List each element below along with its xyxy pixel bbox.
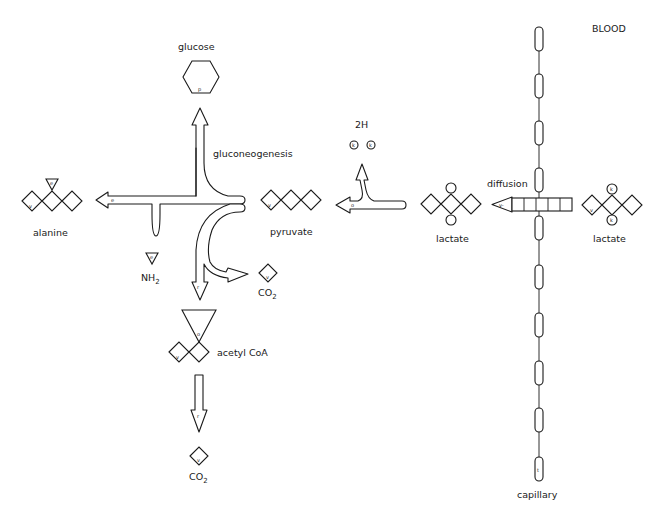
- acetyl-coa-label: acetyl CoA: [217, 347, 268, 358]
- co2-bottom-molecule: v: [190, 447, 208, 465]
- diffusion-arrow: v-: [492, 197, 572, 212]
- blood-lactate-square-3: [622, 195, 642, 215]
- capillary-cell: [535, 216, 543, 240]
- pyruvate-branching-arrows: [96, 108, 248, 300]
- capillary-cell: [535, 265, 543, 289]
- blood-lactate-k-bottom-glyph: k: [610, 217, 613, 223]
- gluconeogenesis-label: gluconeogenesis: [213, 148, 293, 159]
- capillary-cell: [535, 408, 543, 432]
- alanine-arrow-e-glyph: e: [111, 197, 114, 203]
- alanine-square-left: [22, 191, 42, 211]
- co2-mid-label: CO2: [258, 287, 277, 301]
- capillary-cell: [535, 361, 543, 385]
- capillary-cell: [535, 168, 543, 192]
- glucose-molecule: p: [183, 61, 219, 93]
- nh2-e-glyph: e: [150, 254, 153, 260]
- alanine-square-mid: [42, 191, 62, 211]
- alanine-label: alanine: [33, 227, 68, 238]
- lactate-tissue-molecule: [421, 183, 481, 225]
- blood-lactate-square-2: [602, 195, 622, 215]
- pyruvate-label: pyruvate: [270, 226, 313, 237]
- capillary-cell: [535, 27, 543, 51]
- diffusion-shaft: [512, 198, 572, 211]
- capillary-cell: [535, 74, 543, 98]
- h-k2-glyph: k: [369, 142, 372, 148]
- lactate-blood-molecule: k k v: [582, 184, 642, 225]
- decarboxylation-branch-arrow: [192, 204, 248, 300]
- metabolic-pathway-diagram: BLOOD glucose p gluconeogenesis e r e v …: [0, 0, 659, 514]
- pyruvate-square-1: [261, 190, 281, 210]
- acetyl-v-glyph: v: [176, 354, 179, 360]
- h-k1-glyph: k: [352, 142, 355, 148]
- glucose-label: glucose: [178, 41, 215, 52]
- lactate-oh-top: [446, 183, 456, 193]
- co2-bottom-label: CO2: [189, 471, 208, 485]
- tca-arrow: [191, 375, 207, 432]
- pyruvate-v-glyph: v: [268, 202, 271, 208]
- lactate-blood-label: lactate: [593, 233, 626, 244]
- acetyl-coa-square-left: [169, 342, 189, 362]
- capillary-label: capillary: [517, 489, 558, 500]
- acetyl-coa-triangle: [182, 310, 216, 342]
- capillary-wall: t: [535, 27, 543, 481]
- lactate-square-2: [441, 194, 461, 214]
- blood-lactate-v-glyph: v: [590, 207, 593, 213]
- acetyl-coa-square-right: [189, 342, 209, 362]
- nh2-label: NH2: [141, 272, 160, 286]
- acetyl-o-glyph: o: [197, 331, 200, 337]
- alanine-v-glyph: v: [29, 203, 32, 209]
- lactate-square-1: [421, 194, 441, 214]
- nh2-group: e: [146, 253, 158, 264]
- glucose-p-glyph: p: [198, 86, 201, 93]
- alanine-square-right: [62, 191, 82, 211]
- alanine-molecule: e v: [22, 179, 82, 211]
- pyruvate-square-2: [281, 190, 301, 210]
- blood-label: BLOOD: [592, 23, 626, 34]
- lactate-tissue-label: lactate: [436, 233, 469, 244]
- co2-mid-molecule: v: [259, 264, 277, 282]
- co2-mid-v-glyph: v: [266, 274, 269, 280]
- pyruvate-molecule: v: [261, 190, 321, 210]
- two-h-label: 2H: [355, 119, 368, 130]
- capillary-cell: [535, 121, 543, 145]
- alanine-e-glyph: e: [50, 180, 53, 186]
- capillary-cell: [535, 313, 543, 337]
- acetyl-coa-molecule: o v: [169, 310, 216, 362]
- diffusion-v-glyph: v-: [499, 202, 504, 208]
- pyruvate-square-3: [301, 190, 321, 210]
- hydrogen-pair: k k: [350, 141, 375, 149]
- diffusion-label: diffusion: [487, 178, 528, 189]
- lactate-dehydrogenase-arrow: [336, 164, 406, 213]
- blood-lactate-k-top-glyph: k: [610, 186, 613, 192]
- lactate-square-3: [461, 194, 481, 214]
- lactate-arrow-o-glyph: o: [351, 202, 354, 208]
- co2-bottom-v-glyph: v: [197, 457, 200, 463]
- lactate-oh-bottom: [446, 215, 456, 225]
- capillary-t-glyph: t: [537, 467, 539, 473]
